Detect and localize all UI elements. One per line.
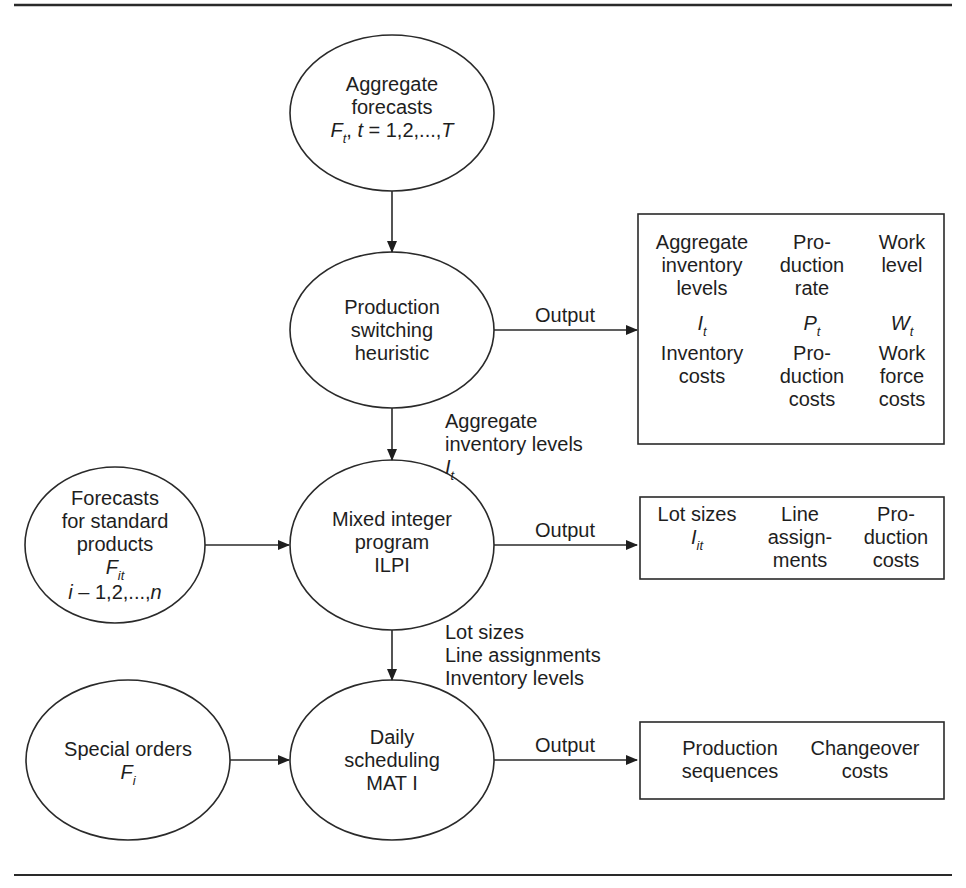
- text-line: for standard: [25, 510, 205, 533]
- text-line: Production: [660, 737, 800, 760]
- text-line: Changeover: [800, 737, 930, 760]
- text-line: Forecasts: [25, 487, 205, 510]
- formula: Pt: [762, 300, 862, 342]
- text-line: levels: [642, 277, 762, 300]
- symbol: F: [330, 119, 342, 141]
- subscript: it: [118, 568, 125, 583]
- text-line: rate: [762, 277, 862, 300]
- text-line: Production: [292, 296, 492, 319]
- text: = 1,2,...,: [363, 119, 441, 141]
- text-line: costs: [850, 549, 942, 572]
- text-line: Pro-: [762, 231, 862, 254]
- label-special-orders: Special orders Fi: [28, 738, 228, 786]
- label-daily-scheduling: Daily scheduling MAT I: [292, 726, 492, 795]
- subscript: t: [703, 324, 707, 339]
- subscript: it: [697, 538, 704, 553]
- box1-col-inventory: Aggregate inventory levels It Inventory …: [642, 231, 762, 388]
- label-forecasts-standard: Forecasts for standard products Fit i – …: [25, 487, 205, 604]
- formula: Fi: [28, 761, 228, 786]
- text-line: products: [25, 533, 205, 556]
- text-line: Line assignments: [445, 644, 601, 667]
- text-line: Special orders: [28, 738, 228, 761]
- subscript: t: [817, 324, 821, 339]
- text-line: Pro-: [762, 342, 862, 365]
- symbol: P: [804, 312, 817, 334]
- text-line: ments: [752, 549, 848, 572]
- subscript: i: [133, 773, 136, 788]
- text-line: inventory: [642, 254, 762, 277]
- box1-col-work: Work level Wt Work force costs: [862, 231, 942, 411]
- end: n: [151, 581, 162, 603]
- edge-label-lot-sizes: Lot sizes Line assignments Inventory lev…: [445, 621, 601, 690]
- text-line: assign-: [752, 526, 848, 549]
- edge-label-output-3: Output: [525, 734, 605, 757]
- text-line: Work: [862, 342, 942, 365]
- text-line: costs: [800, 760, 930, 783]
- text-line: Mixed integer: [292, 508, 492, 531]
- symbol: F: [106, 556, 118, 578]
- box2-col-lot-sizes: Lot sizes Iit: [644, 503, 750, 551]
- text-line: Lot sizes: [445, 621, 601, 644]
- box2-col-line-assignments: Line assign- ments: [752, 503, 848, 572]
- text-line: ILPI: [292, 554, 492, 577]
- text-line: forecasts: [292, 96, 492, 119]
- symbol: F: [120, 761, 132, 783]
- subscript: t: [343, 131, 347, 146]
- text-line: sequences: [660, 760, 800, 783]
- symbol: I: [445, 456, 451, 478]
- label-production-switching: Production switching heuristic: [292, 296, 492, 365]
- text-line: level: [862, 254, 942, 277]
- text-line: costs: [642, 365, 762, 388]
- text-line: switching: [292, 319, 492, 342]
- formula: It: [642, 300, 762, 342]
- text: ,: [346, 119, 357, 141]
- subscript: t: [910, 324, 914, 339]
- box3-col-production-sequences: Production sequences: [660, 737, 800, 783]
- symbol: I: [691, 526, 697, 548]
- formula: Iit: [644, 526, 750, 551]
- text-line: duction: [762, 365, 862, 388]
- text-line: duction: [762, 254, 862, 277]
- text-line: program: [292, 531, 492, 554]
- text-line: Inventory levels: [445, 667, 601, 690]
- text-line: force: [862, 365, 942, 388]
- formula: Fit: [25, 556, 205, 581]
- formula: Ft, t = 1,2,...,T: [292, 119, 492, 144]
- edge-label-aggregate-inventory: Aggregate inventory levels It: [445, 410, 583, 481]
- text-line: Pro-: [850, 503, 942, 526]
- text-line: duction: [850, 526, 942, 549]
- text-line: Aggregate: [445, 410, 583, 433]
- text-line: Inventory: [642, 342, 762, 365]
- text-line: inventory levels: [445, 433, 583, 456]
- text-line: MAT I: [292, 772, 492, 795]
- label-aggregate-forecasts: Aggregate forecasts Ft, t = 1,2,...,T: [292, 73, 492, 144]
- text-line: costs: [762, 388, 862, 411]
- text-line: Aggregate: [292, 73, 492, 96]
- edge-label-output-1: Output: [525, 304, 605, 327]
- formula: Wt: [862, 300, 942, 342]
- text-line: Aggregate: [642, 231, 762, 254]
- text-line: costs: [862, 388, 942, 411]
- subscript: t: [451, 468, 455, 483]
- box1-col-production: Pro- duction rate Pt Pro- duction costs: [762, 231, 862, 411]
- box3-col-changeover-costs: Changeover costs: [800, 737, 930, 783]
- text-line: scheduling: [292, 749, 492, 772]
- symbol: W: [891, 312, 910, 334]
- text-line: Work: [862, 231, 942, 254]
- text: – 1,2,...,: [73, 581, 151, 603]
- end: T: [441, 119, 453, 141]
- box2-col-production-costs: Pro- duction costs: [850, 503, 942, 572]
- text-line: heuristic: [292, 342, 492, 365]
- text-line: Lot sizes: [644, 503, 750, 526]
- range: i – 1,2,...,n: [25, 581, 205, 604]
- text-line: Daily: [292, 726, 492, 749]
- formula: It: [445, 456, 583, 481]
- label-mixed-integer: Mixed integer program ILPI: [292, 508, 492, 577]
- edge-label-output-2: Output: [525, 519, 605, 542]
- text-line: Line: [752, 503, 848, 526]
